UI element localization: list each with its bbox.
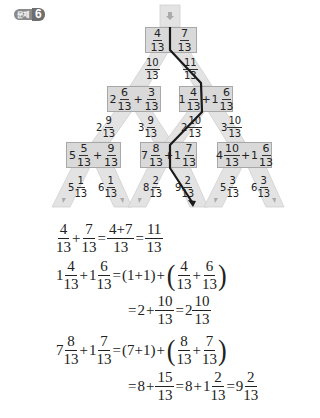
right-paren: ) xyxy=(218,261,227,290)
branch-result-l3-b: 6113 xyxy=(98,176,117,199)
branch-result-l2-c: 21013 xyxy=(181,116,202,139)
branch-result-l3-c: 8213 xyxy=(143,176,162,199)
branch-result-l2-a: 2913 xyxy=(96,116,115,139)
equation-3-line-1: 7 813 + 1 713 = (7+1) + ( 813 + 713 ) xyxy=(56,334,228,367)
equation-2-line-2: = 2 + 1013 = 2 1013 xyxy=(128,294,211,327)
equation-1: 413 + 713 = 4+713 = 1113 xyxy=(56,222,163,255)
equation-3-line-2: = 8 + 1513 = 8 + 1 213 = 9 213 xyxy=(128,370,258,403)
branch-result-l3-d: 9213 xyxy=(175,176,194,199)
level3-box-b: 7 813 + 1 713 xyxy=(140,142,197,168)
top-expression-box: 413 + 713 xyxy=(145,27,197,53)
left-paren: ( xyxy=(167,336,176,365)
level2-box-right: 1 413 + 1 613 xyxy=(179,86,233,112)
level3-box-a: 5 513 + 913 xyxy=(66,142,121,168)
branch-result-l3-f: 6313 xyxy=(251,176,270,199)
branch-result-l1-left: 1013 xyxy=(145,58,160,81)
equation-2-line-1: 1 413 + 1 613 = (1+1) + ( 413 + 613 ) xyxy=(56,259,228,292)
left-paren: ( xyxy=(167,261,176,290)
branch-result-l2-b: 3913 xyxy=(138,116,157,139)
branch-result-l3-a: 5113 xyxy=(68,176,87,199)
branch-result-l1-right: 1113 xyxy=(183,58,198,81)
fraction: 413 xyxy=(150,28,164,53)
right-paren: ) xyxy=(218,336,227,365)
level2-box-left: 2 613 + 313 xyxy=(107,86,161,112)
level3-box-c: 4 1013 + 1 613 xyxy=(217,142,272,168)
branch-result-l3-e: 5313 xyxy=(220,176,239,199)
fraction: 713 xyxy=(178,28,192,53)
branch-result-l2-d: 31013 xyxy=(221,116,242,139)
